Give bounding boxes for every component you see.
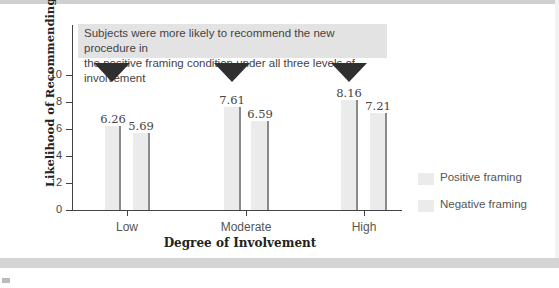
value-label: 5.69 [121, 119, 161, 133]
x-tick-label: Low [87, 220, 167, 234]
y-tick [66, 183, 72, 184]
legend-swatch [418, 200, 434, 212]
x-axis-title: Degree of Involvement [160, 236, 320, 250]
bar-high-negative [370, 113, 387, 210]
bottom-border [0, 258, 559, 268]
legend-swatch [418, 173, 434, 185]
x-tick [246, 211, 247, 216]
bar-moderate-positive [224, 107, 241, 210]
triangle-marker-icon [94, 63, 130, 82]
value-label: 8.16 [329, 86, 369, 100]
bar-moderate-negative [251, 121, 269, 210]
x-tick-label: Moderate [206, 220, 286, 234]
bar-chart: Subjects were more likely to recommend t… [0, 0, 559, 258]
triangle-marker-icon [331, 63, 367, 82]
bar-high-positive [341, 100, 358, 210]
bar-low-positive [105, 126, 121, 210]
x-tick [364, 211, 365, 216]
y-tick [66, 75, 72, 76]
value-label: 6.59 [240, 107, 280, 121]
legend-label: Negative framing [440, 198, 527, 210]
y-tick-label: 0 [40, 203, 62, 215]
y-tick [66, 129, 72, 130]
x-axis [66, 210, 402, 211]
triangle-marker-icon [214, 63, 250, 82]
logo-icon [2, 278, 10, 283]
y-tick [66, 156, 72, 157]
y-axis [72, 25, 73, 211]
y-axis-title: Likelihood of Recommending [43, 47, 57, 187]
annotation-box: Subjects were more likely to recommend t… [78, 24, 387, 58]
bar-low-negative [133, 133, 150, 210]
x-tick [127, 211, 128, 216]
value-label: 7.61 [212, 93, 252, 107]
legend-label: Positive framing [440, 171, 522, 183]
value-label: 7.21 [358, 99, 398, 113]
y-tick [66, 102, 72, 103]
annotation-line-1: Subjects were more likely to recommend t… [84, 26, 387, 56]
x-tick-label: High [324, 220, 404, 234]
